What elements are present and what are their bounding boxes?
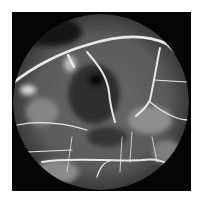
fundus-illustration xyxy=(12,12,191,191)
angiogram-image xyxy=(12,12,191,191)
